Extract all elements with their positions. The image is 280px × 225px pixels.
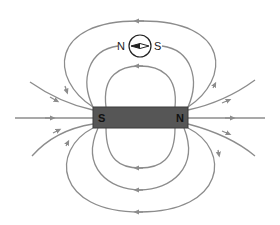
field-line-upper-left-open [30,82,93,110]
magnet-north-pole-label: N [176,113,184,124]
field-line-top-middle-right [162,46,193,107]
field-line-bottom-inner [106,128,175,168]
magnet-south-pole-label: S [98,113,105,124]
compass [129,35,151,57]
field-line-lower-right-open [188,124,255,156]
field-line-upper-right-open [188,80,255,110]
compass-north-label: N [117,41,125,52]
field-line-bottom-outer [66,128,214,212]
bar-magnet [93,107,188,128]
field-line-top-middle-left [87,46,118,107]
field-line-lower-left-open [32,124,93,156]
field-line-top-outer [64,21,215,107]
field-line-top-inner [105,66,175,107]
magnetic-field-diagram [0,0,280,225]
compass-south-label: S [154,41,161,52]
